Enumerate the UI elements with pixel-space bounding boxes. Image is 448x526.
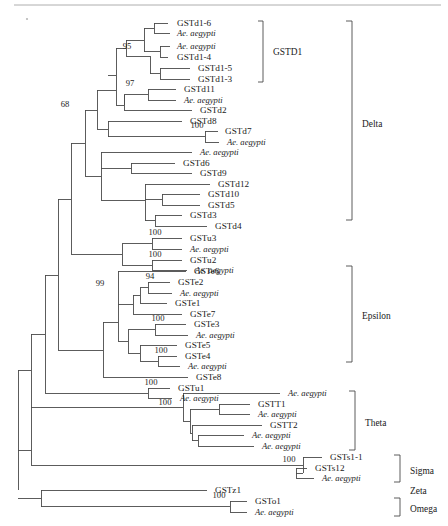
tree-tip-label: Ae. aegypti bbox=[287, 388, 327, 398]
bootstrap-support-value: 100 bbox=[155, 345, 168, 355]
tree-tip-label: GSTe3 bbox=[194, 319, 220, 329]
tree-tip-label: Ae. aegypti bbox=[187, 361, 227, 371]
tree-tip-label: GSTd8 bbox=[190, 116, 217, 126]
tree-tip-label: GSTd9 bbox=[200, 168, 227, 178]
tree-branch bbox=[144, 28, 170, 52]
tree-branch bbox=[205, 131, 219, 142]
tree-branch bbox=[108, 48, 126, 75]
tree-tip-label: GSTT1 bbox=[258, 399, 286, 409]
tree-tip-label: GSTe2 bbox=[178, 277, 204, 287]
tree-tip-label: Ae. aegypti bbox=[261, 441, 301, 451]
bootstrap-support-value: 95 bbox=[123, 41, 132, 51]
tree-tip-label: GSTu1 bbox=[178, 383, 205, 393]
tree-tip-label: GSTe5 bbox=[185, 340, 211, 350]
tree-branch bbox=[148, 282, 172, 293]
bootstrap-support-value: 100 bbox=[145, 377, 158, 387]
bootstrap-support-value: 94 bbox=[146, 271, 155, 281]
tree-branch bbox=[230, 501, 247, 512]
tree-tip-label: GSTe4 bbox=[185, 351, 211, 361]
clade-bracket-gstd1 bbox=[258, 21, 263, 82]
tree-tip-label: GSTz1 bbox=[215, 485, 241, 495]
clade-label-zeta: Zeta bbox=[410, 486, 427, 496]
tree-branch bbox=[154, 23, 170, 33]
tree-tip-label: GSTe7 bbox=[190, 309, 216, 319]
tree-tip-label: GSTd4 bbox=[215, 221, 242, 231]
tree-branch bbox=[162, 194, 200, 205]
tree-tip-label: Ae. aegypti bbox=[251, 430, 291, 440]
tree-tip-label: GSTd5 bbox=[208, 200, 235, 210]
tree-tip-label: Ae. aegypti bbox=[321, 473, 361, 483]
clade-bracket-epsilon bbox=[346, 266, 352, 362]
tree-tip-label: GSTe1 bbox=[175, 298, 201, 308]
tree-branch bbox=[116, 95, 124, 106]
tree-branch bbox=[124, 95, 192, 111]
tree-branch bbox=[148, 89, 176, 100]
tree-tip-label: GSTd1-3 bbox=[198, 74, 233, 84]
tree-tip-label: GSTd1-4 bbox=[177, 52, 212, 62]
tree-tip-label: Ae. aegypti bbox=[254, 507, 294, 517]
tree-tip-label: Ae. aegypti bbox=[183, 95, 223, 105]
clade-label-delta: Delta bbox=[362, 119, 383, 129]
tree-tip-label: Ae. aegypti bbox=[179, 288, 219, 298]
clade-bracket-delta bbox=[346, 21, 352, 220]
tree-branch bbox=[152, 238, 182, 249]
clade-label-omega: Omega bbox=[410, 504, 438, 514]
clade-bracket-sigma bbox=[394, 455, 400, 482]
tree-branch bbox=[152, 260, 187, 270]
tree-tip-label: GSTT2 bbox=[270, 420, 298, 430]
tree-branch bbox=[160, 52, 168, 58]
tree-tip-label: Ae. aegypti bbox=[176, 28, 216, 38]
tree-tip-label: Ae. aegypti bbox=[176, 41, 216, 51]
clade-label-epsilon: Epsilon bbox=[362, 311, 391, 321]
tree-tip-label: Ae. aegypti bbox=[199, 147, 239, 157]
bootstrap-support-value: 100 bbox=[149, 227, 162, 237]
tree-tip-label: GSTo1 bbox=[255, 496, 281, 506]
page-speck-mark bbox=[26, 18, 28, 20]
tree-branch bbox=[219, 404, 250, 414]
tree-tip-label: Ae. aegypti bbox=[189, 244, 229, 254]
bootstrap-support-value: 100 bbox=[149, 249, 162, 259]
clade-label-theta: Theta bbox=[365, 418, 387, 428]
bootstrap-support-value: 100 bbox=[152, 313, 165, 323]
figure-canvas: 9597681001001009994100100100100100100 GS… bbox=[0, 0, 448, 526]
tree-branch bbox=[126, 56, 160, 74]
bootstrap-support-value: 97 bbox=[126, 78, 135, 88]
tree-tip-label: Ae. aegypti bbox=[226, 137, 266, 147]
tree-tip-label: GSTd1-6 bbox=[177, 18, 212, 28]
bootstrap-support-value: 68 bbox=[61, 99, 70, 109]
tree-tip-label: GSTe6 bbox=[194, 266, 220, 276]
tree-tip-label: Ae. aegypti bbox=[257, 409, 297, 419]
tree-tip-label: GSTu2 bbox=[190, 255, 217, 265]
tree-branch bbox=[155, 324, 188, 335]
bootstrap-support-value: 99 bbox=[96, 278, 105, 288]
tip-label-layer: GSTd1-6Ae. aegyptiAe. aegyptiGSTd1-4GSTd… bbox=[175, 18, 363, 517]
tree-tip-label: GSTd3 bbox=[190, 210, 217, 220]
tree-tip-label: GSTs1-1 bbox=[330, 452, 363, 462]
bootstrap-support-value: 100 bbox=[159, 397, 172, 407]
phylogenetic-tree: 9597681001001009994100100100100100100 GS… bbox=[0, 0, 448, 526]
tree-tip-label: Ae. aegypti bbox=[195, 330, 235, 340]
tree-tip-label: GSTd7 bbox=[225, 126, 252, 136]
clade-label-sigma: Sigma bbox=[410, 466, 435, 476]
tree-tip-label: GSTd10 bbox=[208, 189, 240, 199]
tree-branch bbox=[160, 68, 190, 79]
tree-tip-label: GSTe8 bbox=[196, 372, 222, 382]
tree-tip-label: GSTu3 bbox=[190, 233, 217, 243]
tree-branch bbox=[158, 356, 180, 366]
clade-label-gstd1: GSTD1 bbox=[273, 47, 302, 57]
tree-tip-label: GSTd12 bbox=[218, 179, 250, 189]
tree-tip-label: GSTd11 bbox=[184, 84, 215, 94]
tree-tip-label: GSTs12 bbox=[315, 463, 345, 473]
tree-tip-label: GSTd2 bbox=[200, 105, 227, 115]
tree-tip-label: GSTd1-5 bbox=[198, 63, 233, 73]
clade-bracket-theta bbox=[349, 391, 355, 450]
clade-bracket-omega bbox=[394, 498, 400, 516]
bootstrap-support-value: 100 bbox=[283, 454, 296, 464]
tree-tip-label: Ae. aegypti bbox=[179, 393, 219, 403]
decoration-layer bbox=[14, 5, 441, 20]
tree-tip-label: GSTd6 bbox=[183, 158, 210, 168]
tree-branch bbox=[198, 435, 254, 446]
